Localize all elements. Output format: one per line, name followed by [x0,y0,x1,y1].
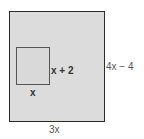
inner-rectangle [16,47,50,85]
outer-height-label: 4x − 4 [106,62,134,72]
inner-width-label: x [30,88,36,98]
outer-width-label: 3x [49,125,60,135]
inner-height-label: x + 2 [51,66,74,76]
